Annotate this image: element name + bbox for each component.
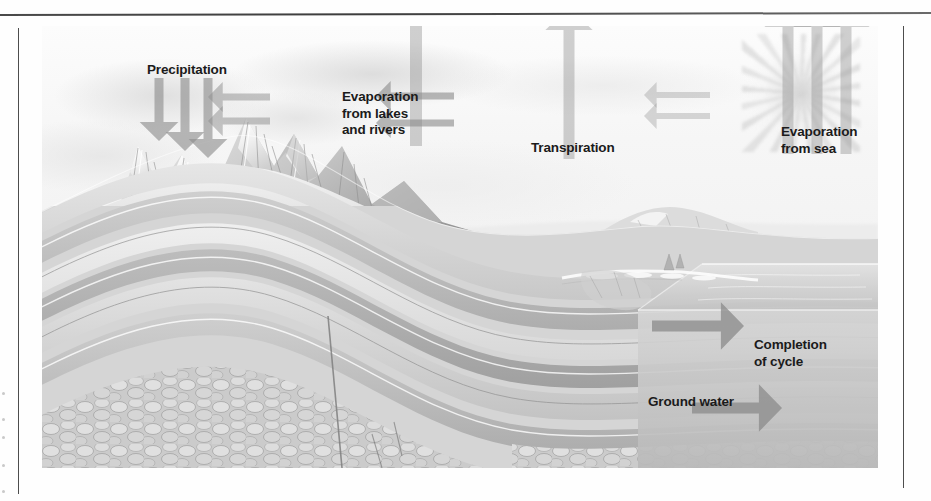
page-root: PrecipitationEvaporation from lakes and … — [0, 0, 931, 501]
flow-arrows-layer — [42, 26, 878, 468]
page-rule-left — [18, 28, 19, 494]
label-ground-water: Ground water — [648, 394, 734, 411]
scan-edge-marks — [2, 392, 8, 492]
arrow-wind-arrow-left-1 — [208, 82, 270, 112]
arrow-wind-arrow-right-1 — [644, 82, 710, 108]
label-transpiration: Transpiration — [531, 140, 615, 157]
arrow-wind-arrow-right-2 — [644, 103, 710, 129]
label-evaporation-lakes: Evaporation from lakes and rivers — [342, 89, 418, 139]
label-precipitation: Precipitation — [147, 62, 227, 79]
label-evaporation-sea: Evaporation from sea — [781, 124, 857, 157]
arrow-precipitation-arrow-1 — [140, 78, 179, 141]
arrow-groundwater-flow-arrow-1 — [652, 302, 744, 349]
label-completion: Completion of cycle — [754, 337, 827, 370]
water-cycle-illustration: PrecipitationEvaporation from lakes and … — [42, 26, 878, 468]
page-rule-top — [0, 12, 931, 16]
page-rule-right — [903, 26, 904, 488]
arrow-wind-arrow-left-2 — [208, 106, 270, 136]
